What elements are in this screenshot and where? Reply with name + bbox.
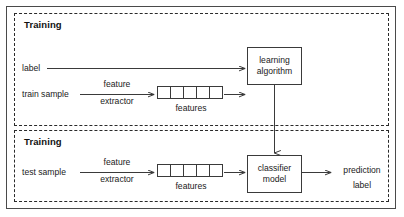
- feature-extractor-training-line2: extractor: [93, 96, 141, 107]
- feature-cell: [170, 86, 184, 99]
- learning-algorithm-line2: algorithm: [257, 66, 292, 77]
- features-array-training: [157, 86, 223, 99]
- classifier-model-box: classifier model: [247, 155, 302, 193]
- features-array-testing: [157, 164, 223, 177]
- feature-extractor-training-line1: feature: [95, 79, 139, 90]
- learning-algorithm-line1: learning: [259, 55, 290, 66]
- input-train-sample-label: train sample: [22, 89, 69, 100]
- feature-extractor-testing-line2: extractor: [93, 174, 141, 185]
- classifier-model-line2: model: [263, 174, 286, 185]
- feature-cell: [157, 86, 171, 99]
- prediction-label-line1: prediction: [335, 165, 389, 176]
- panel-training-title: Training: [24, 19, 62, 30]
- feature-extractor-testing-line1: feature: [95, 157, 139, 168]
- learning-algorithm-box: learning algorithm: [247, 47, 302, 85]
- prediction-label-line2: label: [335, 180, 389, 191]
- feature-cell: [209, 86, 223, 99]
- diagram-canvas: Training label train sample feature extr…: [0, 0, 404, 217]
- features-testing-label: features: [157, 181, 225, 192]
- feature-cell: [157, 164, 171, 177]
- classifier-model-line1: classifier: [258, 163, 291, 174]
- input-test-sample-label: test sample: [22, 167, 66, 178]
- panel-testing-title: Training: [24, 136, 62, 147]
- feature-cell: [196, 86, 210, 99]
- features-training-label: features: [157, 103, 225, 114]
- input-label-label: label: [22, 63, 40, 74]
- feature-cell: [209, 164, 223, 177]
- feature-cell: [183, 86, 197, 99]
- feature-cell: [170, 164, 184, 177]
- feature-cell: [183, 164, 197, 177]
- feature-cell: [196, 164, 210, 177]
